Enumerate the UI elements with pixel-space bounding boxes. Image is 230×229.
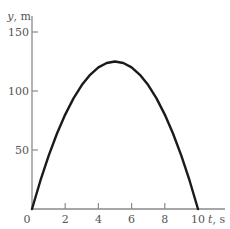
- x-axis-title: t, s: [208, 213, 225, 226]
- x-tick-label: 4: [95, 213, 102, 226]
- y-axis-ticks: 50100150: [8, 26, 38, 157]
- y-tick-label: 50: [15, 144, 29, 157]
- y-tick-label: 150: [8, 26, 29, 39]
- axes: [32, 16, 225, 209]
- x-axis-title-unit: , s: [212, 213, 225, 226]
- y-axis-title-unit: , m: [14, 10, 32, 23]
- trajectory-curve: [32, 62, 198, 210]
- y-tick-label: 100: [8, 85, 29, 98]
- x-tick-label: 10: [191, 213, 205, 226]
- x-axis-ticks: 0246810: [24, 203, 206, 226]
- y-axis-title: y, m: [6, 10, 31, 23]
- x-tick-label: 0: [24, 213, 31, 226]
- chart: 50100150 0246810 y, m t, s: [0, 0, 230, 229]
- x-tick-label: 6: [128, 213, 135, 226]
- x-tick-label: 8: [161, 213, 168, 226]
- x-tick-label: 2: [62, 213, 69, 226]
